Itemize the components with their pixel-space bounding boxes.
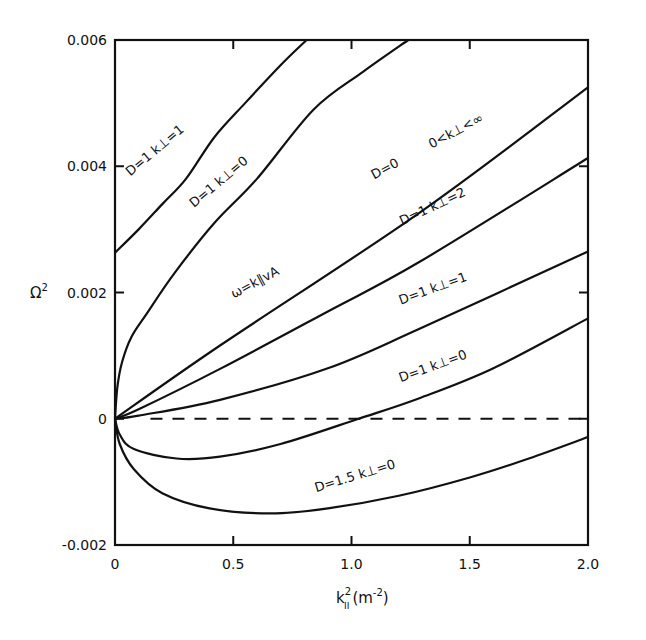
curve (115, 87, 588, 418)
y-axis-ticks: 0.0060.0040.0020-0.002 (62, 32, 588, 553)
y-tick-label: 0.004 (67, 158, 107, 174)
curve-label: D=1 k⊥=2 (397, 184, 468, 228)
curve-label: 0<k⊥<∞ (426, 110, 486, 151)
curve-label: D=1.5 k⊥=0 (313, 456, 397, 495)
y-axis-title: Ω2 (30, 282, 48, 302)
curve-label: D=1 k⊥=1 (123, 122, 187, 179)
curve (115, 318, 588, 459)
y-tick-label: 0 (98, 411, 107, 427)
dispersion-chart: 00.51.01.52.0 0.0060.0040.0020-0.002 D=1… (0, 0, 646, 640)
curve-label: D=1 k⊥=1 (397, 269, 469, 307)
curve-label: D=1 k⊥=0 (397, 347, 469, 385)
curve (115, 40, 307, 253)
curve-label: D=1 k⊥=0 (186, 153, 250, 210)
x-axis-ticks: 00.51.01.52.0 (111, 40, 600, 572)
x-tick-label: 1.0 (340, 556, 362, 572)
curve (115, 419, 588, 514)
x-tick-label: 0.5 (222, 556, 244, 572)
x-tick-label: 1.5 (459, 556, 481, 572)
x-tick-label: 2.0 (577, 556, 599, 572)
y-tick-label: -0.002 (62, 537, 107, 553)
curves (115, 40, 588, 513)
y-tick-label: 0.002 (67, 285, 107, 301)
curve (115, 40, 408, 419)
curve (115, 251, 588, 418)
curve (115, 158, 588, 419)
x-tick-label: 0 (111, 556, 120, 572)
curve-label: D=0 (368, 155, 401, 182)
curve-label: ω=k∥vA (228, 263, 281, 301)
y-tick-label: 0.006 (67, 32, 107, 48)
x-axis-title: k2II(m-2) (336, 586, 389, 611)
